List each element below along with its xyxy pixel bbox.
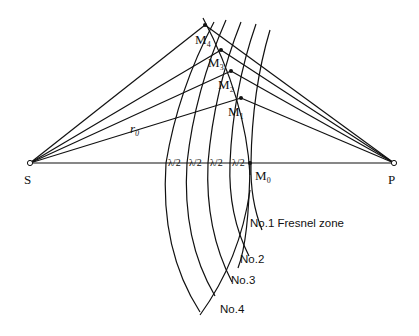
m0-point xyxy=(248,161,252,165)
fresnel-zone-diagram: S P M₀ M₁ M₂ M₃ M₄ r₀ λ/2 λ/2 λ/2 λ/2 No… xyxy=(0,0,419,336)
m4-label: M₄ xyxy=(195,32,212,47)
m2-point xyxy=(229,69,233,73)
zone-2-label: No.2 xyxy=(240,253,264,265)
half-wave-label-4: λ/2 xyxy=(232,157,245,168)
ray-s-m3 xyxy=(30,50,221,163)
m1-label: M₁ xyxy=(228,104,244,119)
m4-point xyxy=(203,23,207,27)
zone-3-label: No.3 xyxy=(231,274,255,286)
r0-label: r₀ xyxy=(130,121,140,136)
half-wave-label-2: λ/2 xyxy=(189,157,202,168)
zone-4-label: No.4 xyxy=(220,303,245,315)
m3-label: M₃ xyxy=(208,55,224,70)
m1-point xyxy=(239,96,243,100)
observer-point xyxy=(391,160,396,165)
ray-s-m4 xyxy=(30,25,205,163)
ray-m4-p xyxy=(205,25,394,163)
ray-m2-p xyxy=(231,71,394,163)
half-wave-label-1: λ/2 xyxy=(168,157,181,168)
half-wave-label-3: λ/2 xyxy=(210,157,223,168)
m2-label: M₂ xyxy=(218,77,234,92)
m3-point xyxy=(219,48,223,52)
observer-label: P xyxy=(388,172,395,187)
zone-1-label: No.1 Fresnel zone xyxy=(250,217,344,229)
ray-s-m2 xyxy=(30,71,231,163)
source-point xyxy=(27,160,32,165)
m0-label: M₀ xyxy=(255,168,271,183)
source-label: S xyxy=(24,172,31,187)
